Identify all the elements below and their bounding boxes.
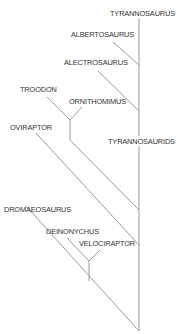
label-deinonychus: DEINONYCHUS xyxy=(46,227,99,236)
label-troodon: TROODON xyxy=(20,85,57,94)
branch-velociraptor xyxy=(89,250,100,261)
branch-troodon xyxy=(47,97,70,120)
branch-dromaeosaurus xyxy=(26,206,139,331)
label-tyrannosaurus: TYRANNOSAURUS xyxy=(110,9,175,18)
branch-troodon-ornithomimus-to-trunk xyxy=(70,140,139,210)
branch-ornithomimus xyxy=(70,107,82,120)
label-velociraptor: VELOCIRAPTOR xyxy=(79,239,135,248)
cladogram-diagram: TYRANNOSAURUS ALBERTOSAURUS ALECTROSAURU… xyxy=(0,0,177,334)
label-alectrosaurus: ALECTROSAURUS xyxy=(64,58,128,67)
label-oviraptor: OVIRAPTOR xyxy=(10,123,52,132)
label-tyrannosaurids: TYRANNOSAURIDS xyxy=(108,137,175,146)
label-albertosaurus: ALBERTOSAURUS xyxy=(71,30,134,39)
label-ornithomimus: ORNITHOMIMUS xyxy=(69,97,126,106)
label-dromaeosaurus: DROMAEOSAURUS xyxy=(4,205,71,214)
